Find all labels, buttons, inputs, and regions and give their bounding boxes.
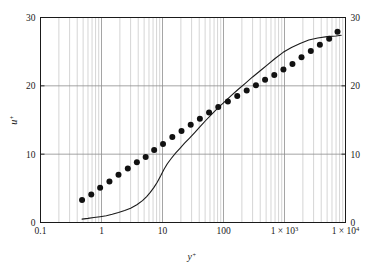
x-tick-label: 1: [99, 226, 104, 236]
data-point: [116, 172, 122, 178]
data-point: [326, 36, 332, 42]
x-tick-label: 0.1: [35, 226, 47, 236]
data-point: [225, 99, 231, 105]
y-tick-label-right: 30: [351, 13, 361, 23]
law-of-the-wall-plot: 0.11101001 × 1031 × 104 0102030 0102030 …: [0, 0, 384, 273]
y-tick-label-right: 20: [351, 81, 361, 91]
data-point: [244, 88, 250, 94]
y-tick-label-right: 0: [351, 218, 356, 228]
data-point: [262, 77, 268, 83]
data-point: [271, 72, 277, 78]
data-point: [308, 48, 314, 54]
data-point: [280, 66, 286, 72]
data-point: [169, 134, 175, 140]
data-point: [88, 191, 94, 197]
y-tick-label-right: 10: [351, 150, 361, 160]
x-tick-label: 1 × 103: [271, 225, 299, 236]
y-tick-label-left: 30: [26, 13, 36, 23]
data-point: [143, 154, 149, 160]
data-point: [317, 42, 323, 48]
data-point: [299, 54, 305, 60]
data-point: [215, 104, 221, 110]
y-tick-label-left: 10: [26, 150, 36, 160]
data-point: [289, 61, 295, 67]
y-tick-label-left: 0: [31, 218, 36, 228]
data-point: [197, 116, 203, 122]
data-point: [188, 122, 194, 128]
data-point: [253, 82, 259, 88]
data-point: [106, 179, 112, 185]
y-tick-label-left: 20: [26, 81, 36, 91]
data-point: [97, 185, 103, 191]
x-tick-label: 10: [158, 226, 168, 236]
chart-figure: 0.11101001 × 1031 × 104 0102030 0102030 …: [0, 0, 384, 273]
data-point: [234, 93, 240, 99]
figure-background: [0, 0, 384, 273]
data-point: [179, 128, 185, 134]
x-tick-label: 100: [216, 226, 231, 236]
data-point: [125, 166, 131, 172]
data-point: [134, 159, 140, 165]
data-point: [206, 109, 212, 115]
data-point: [151, 147, 157, 153]
data-point: [160, 141, 166, 147]
data-point: [79, 197, 85, 203]
x-tick-label: 1 × 104: [332, 225, 360, 236]
data-point: [335, 29, 341, 35]
